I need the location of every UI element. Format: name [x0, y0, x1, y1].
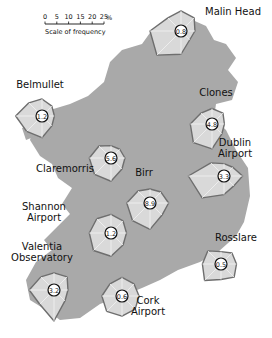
station-label: ShannonAirport	[22, 201, 66, 223]
scale-tick-label: 0	[43, 13, 47, 21]
station-label: Malin Head	[205, 6, 261, 17]
calm-percentage: 3.2	[49, 287, 59, 295]
station-label-line: Claremorris	[36, 163, 94, 174]
station-label: Clones	[199, 87, 233, 98]
station-label-line: Rosslare	[215, 232, 257, 243]
station-label-line: Belmullet	[16, 79, 64, 90]
wind-rose-rosslare: 0.5	[202, 251, 236, 281]
wind-rose-map: 0510152025 % Scale of frequency 0.81.24.…	[0, 0, 272, 338]
calm-percentage: 5.6	[106, 155, 116, 163]
calm-percentage: 1.2	[37, 113, 47, 121]
scale-caption: Scale of frequency	[45, 28, 106, 36]
station-label-line: Birr	[135, 167, 154, 178]
scale-tick-label: 10	[64, 13, 72, 21]
calm-percentage: 4.8	[207, 121, 217, 129]
calm-percentage: 0.8	[176, 28, 186, 36]
station-label-line: Cork	[136, 295, 159, 306]
frequency-scale-legend: 0510152025 % Scale of frequency	[43, 13, 112, 36]
scale-tick-label: 15	[76, 13, 84, 21]
calm-percentage: 0.6	[117, 293, 127, 301]
station-label-line: Airport	[218, 148, 252, 159]
calm-percentage: 1.2	[106, 230, 116, 238]
scale-tick-label: 20	[88, 13, 96, 21]
station-label-line: Clones	[199, 87, 233, 98]
station-label-line: Valentia	[22, 241, 62, 252]
station-label: Birr	[135, 167, 154, 178]
station-label: CorkAirport	[131, 295, 165, 317]
station-label-line: Dublin	[219, 137, 251, 148]
station-label: Claremorris	[36, 163, 94, 174]
scale-tick-label: 5	[55, 13, 59, 21]
scale-unit: %	[106, 14, 112, 22]
station-label: DublinAirport	[218, 137, 252, 159]
station-label-line: Shannon	[22, 201, 66, 212]
station-label: Belmullet	[16, 79, 64, 90]
station-label: Rosslare	[215, 232, 257, 243]
station-label-line: Malin Head	[205, 6, 261, 17]
calm-percentage: 8.9	[145, 200, 155, 208]
calm-percentage: 0.5	[216, 261, 226, 269]
station-label-line: Observatory	[11, 252, 73, 263]
station-label-line: Airport	[131, 306, 165, 317]
calm-percentage: 3.3	[219, 173, 229, 181]
station-label-line: Airport	[27, 212, 61, 223]
